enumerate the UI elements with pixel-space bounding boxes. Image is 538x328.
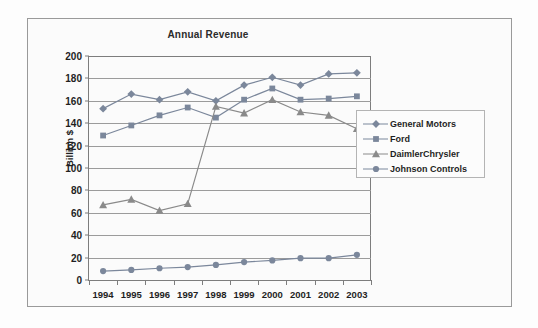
x-tick-label: 2002 [318,289,339,300]
legend-marker-square-icon [363,133,388,145]
legend-item[interactable]: General Motors [363,116,484,131]
chart-legend: General MotorsFordDaimlerChryslerJohnson… [356,110,485,178]
legend-label: General Motors [390,119,456,129]
x-tick-label: 2001 [290,289,311,300]
series-daimlerchrysler [99,96,361,214]
data-point-marker [297,255,303,261]
data-point-marker [212,102,220,109]
x-tick-mark [258,280,259,285]
data-point-marker [100,268,106,274]
x-tick-label: 1998 [205,289,226,300]
data-point-marker [354,93,360,99]
data-point-marker [156,96,164,104]
y-tick-label: 160 [65,95,82,106]
y-tick-label: 200 [65,51,82,62]
data-point-marker [268,96,276,103]
y-tick-label: 100 [65,163,82,174]
series-layer [89,56,371,280]
x-tick-label: 2000 [262,289,283,300]
x-tick-mark [286,280,287,285]
x-tick-mark [315,280,316,285]
x-tick-mark [371,280,372,285]
data-point-marker [353,69,361,77]
legend-item[interactable]: DaimlerChrysler [363,146,484,161]
data-point-marker [184,88,192,96]
legend-marker [370,163,382,175]
data-point-marker [127,195,135,202]
legend-marker [370,133,382,145]
x-tick-mark [202,280,203,285]
legend-marker [370,118,382,130]
x-tick-label: 1997 [177,289,198,300]
y-tick-label: 60 [71,207,82,218]
legend-label: Ford [390,134,410,144]
data-point-marker [185,264,191,270]
plot-inner: 020406080100120140160180200 199419951996… [89,56,371,280]
data-point-marker [127,90,135,98]
x-tick-mark [145,280,146,285]
series-line [103,73,357,109]
y-tick-label: 20 [71,252,82,263]
legend-item[interactable]: Ford [363,131,484,146]
data-point-marker [297,108,305,115]
data-point-marker [128,267,134,273]
data-point-marker [326,255,332,261]
data-point-marker [185,105,191,111]
series-johnson-controls [100,252,360,274]
y-tick-label: 40 [71,230,82,241]
data-point-marker [325,70,333,78]
data-point-marker [372,120,380,128]
data-point-marker [128,123,134,129]
series-line [103,255,357,271]
x-tick-mark [230,280,231,285]
y-tick-label: 120 [65,140,82,151]
legend-marker-circle-icon [363,163,388,175]
x-tick-label: 1996 [149,289,170,300]
legend-marker [370,148,382,160]
data-point-marker [373,136,379,142]
y-tick-label: 140 [65,118,82,129]
y-tick-label: 80 [71,185,82,196]
data-point-marker [372,150,380,157]
data-point-marker [297,81,305,89]
data-point-marker [269,257,275,263]
data-point-marker [326,96,332,102]
data-point-marker [99,105,107,113]
data-point-marker [213,262,219,268]
x-tick-label: 1995 [121,289,142,300]
x-tick-label: 1994 [93,289,114,300]
chart-screenshot: Annual Revenue Billion $ 020406080100120… [0,0,538,328]
legend-marker-triangle-icon [363,148,388,160]
data-point-marker [184,200,192,207]
data-point-marker [241,97,247,103]
series-general-motors [99,69,361,113]
data-point-marker [241,259,247,265]
x-tick-mark [89,280,90,285]
plot-area: 020406080100120140160180200 199419951996… [88,56,371,281]
y-tick-label: 180 [65,73,82,84]
series-line [103,100,357,211]
data-point-marker [240,81,248,89]
data-point-marker [268,73,276,81]
data-point-marker [269,86,275,92]
data-point-marker [372,165,378,171]
x-tick-label: 1999 [234,289,255,300]
y-tick-label: 0 [76,275,82,286]
legend-label: DaimlerChrysler [390,149,460,159]
data-point-marker [298,97,304,103]
legend-item[interactable]: Johnson Controls [363,161,484,176]
data-point-marker [100,133,106,139]
x-tick-label: 2003 [346,289,367,300]
data-point-marker [156,265,162,271]
legend-marker-diamond-icon [363,118,388,130]
data-point-marker [354,252,360,258]
chart-title: Annual Revenue [28,29,388,40]
x-tick-mark [174,280,175,285]
x-tick-mark [343,280,344,285]
data-point-marker [157,112,163,118]
legend-label: Johnson Controls [390,164,467,174]
x-tick-mark [117,280,118,285]
